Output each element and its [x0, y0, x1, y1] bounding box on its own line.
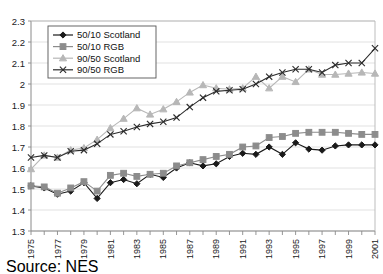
x-tick-label: 1987	[185, 239, 195, 259]
data-point-square	[240, 144, 246, 150]
x-tick-label: 1979	[79, 239, 89, 259]
data-point-square	[60, 44, 66, 50]
data-point-triangle	[107, 125, 114, 131]
y-tick-label: 1.6	[12, 163, 25, 174]
data-point-cross	[266, 74, 272, 80]
y-axis-ticks: 2.32.22.121.91.81.71.61.51.41.3	[12, 16, 31, 237]
y-tick-label: 2	[20, 79, 25, 90]
y-tick-label: 2.1	[12, 58, 25, 69]
y-tick-label: 1.3	[12, 226, 25, 237]
data-point-square	[359, 132, 365, 138]
legend-item-label: 90/50 RGB	[77, 64, 124, 75]
data-point-triangle	[173, 98, 180, 104]
chart-legend: 50/10 Scotland50/10 RGB90/50 Scotland90/…	[48, 26, 156, 78]
x-tick-label: 1985	[159, 239, 169, 259]
legend-item-label: 50/10 Scotland	[77, 29, 140, 40]
y-tick-label: 2.2	[12, 37, 25, 48]
data-point-square	[55, 190, 61, 196]
data-point-triangle	[199, 81, 206, 87]
data-point-square	[213, 154, 219, 160]
y-tick-label: 1.4	[12, 205, 25, 216]
data-point-triangle	[133, 105, 140, 111]
data-point-square	[266, 135, 272, 141]
data-point-diamond	[319, 147, 325, 153]
data-point-square	[319, 129, 325, 135]
x-tick-label: 1997	[317, 239, 327, 259]
data-point-diamond	[332, 143, 338, 149]
x-tick-label: 1995	[291, 239, 301, 259]
data-point-triangle	[252, 73, 259, 79]
data-point-diamond	[121, 176, 127, 182]
data-point-triangle	[279, 73, 286, 79]
legend-item-label: 50/10 RGB	[77, 41, 124, 52]
y-tick-label: 2.3	[12, 16, 25, 27]
data-point-square	[121, 170, 127, 176]
data-point-square	[187, 160, 193, 166]
data-point-square	[81, 179, 87, 185]
x-axis-ticks: 1975197719791981198319851987198919911993…	[26, 231, 380, 259]
data-point-square	[94, 188, 100, 194]
data-point-triangle	[186, 89, 193, 95]
data-point-square	[293, 130, 299, 136]
data-point-cross	[200, 95, 206, 101]
data-point-square	[332, 129, 338, 135]
data-point-diamond	[253, 151, 259, 157]
x-tick-label: 2001	[370, 239, 380, 259]
data-point-square	[279, 134, 285, 140]
data-point-triangle	[160, 106, 167, 112]
data-point-square	[28, 183, 34, 189]
data-point-square	[160, 170, 166, 176]
data-point-triangle	[358, 69, 365, 75]
series-2	[28, 129, 378, 196]
x-tick-label: 1977	[53, 239, 63, 259]
y-tick-label: 1.7	[12, 142, 25, 153]
legend-item-label: 90/50 Scotland	[77, 53, 140, 64]
data-point-square	[306, 129, 312, 135]
data-point-square	[147, 171, 153, 177]
chart-container: 2.32.22.121.91.81.71.61.51.41.3 19751977…	[0, 0, 383, 274]
data-point-diamond	[213, 161, 219, 167]
x-tick-label: 1993	[264, 239, 274, 259]
y-tick-label: 1.9	[12, 100, 25, 111]
data-point-square	[41, 184, 47, 190]
x-tick-label: 1999	[344, 239, 354, 259]
data-point-square	[346, 130, 352, 136]
x-tick-label: 1989	[211, 239, 221, 259]
data-point-square	[200, 157, 206, 163]
data-point-square	[174, 163, 180, 169]
source-note: Source: NES	[6, 258, 98, 274]
x-tick-label: 1981	[106, 239, 116, 259]
x-tick-label: 1983	[132, 239, 142, 259]
y-tick-label: 1.5	[12, 184, 25, 195]
data-point-square	[253, 143, 259, 149]
x-tick-label: 1975	[26, 239, 36, 259]
data-point-cross	[173, 115, 179, 121]
y-tick-label: 1.8	[12, 121, 25, 132]
data-point-square	[372, 132, 378, 138]
series-3	[27, 66, 378, 172]
x-tick-label: 1991	[238, 239, 248, 259]
data-point-square	[134, 174, 140, 180]
data-point-square	[107, 172, 113, 178]
line-chart: 2.32.22.121.91.81.71.61.51.41.3 19751977…	[0, 0, 383, 274]
data-point-diamond	[240, 150, 246, 156]
data-point-diamond	[266, 144, 272, 150]
data-point-square	[68, 185, 74, 191]
data-point-square	[227, 151, 233, 157]
